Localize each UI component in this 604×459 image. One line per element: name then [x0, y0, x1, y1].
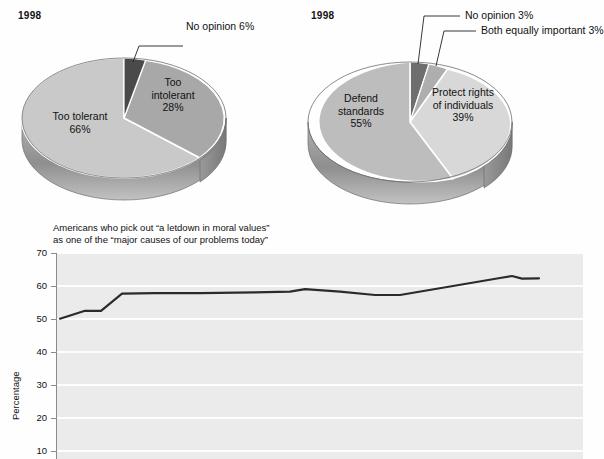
y-tick-label-50: 50: [25, 313, 47, 324]
gridline-40: [57, 351, 583, 353]
gridline-20: [57, 417, 583, 419]
pie2-label-protect-rights-line1: Protect rights: [415, 86, 511, 99]
pie2-label-defend-standards: Defend standards 55%: [316, 92, 406, 130]
plot-area: [57, 253, 583, 459]
pie2-label-defend-standards-line1: Defend: [316, 92, 406, 105]
y-tick-label-20: 20: [25, 412, 47, 423]
gridline-10: [57, 450, 583, 452]
pie2-callout-no-opinion: No opinion 3%: [465, 9, 533, 21]
y-tick-mark-60: [51, 286, 56, 287]
pie2-callout-both-equally-important: Both equally important 3%: [481, 24, 604, 36]
pie2-leader-line-both-equally: [436, 31, 476, 66]
gridline-50: [57, 318, 583, 320]
pie1-label-too-intolerant-value: 28%: [133, 101, 213, 114]
y-tick-mark-50: [51, 319, 56, 320]
y-tick-label-30: 30: [25, 379, 47, 390]
pie2-leader-line-no-opinion: [418, 16, 460, 64]
line-chart-title-line1: Americans who pick out “a letdown in mor…: [53, 222, 269, 234]
pie1-label-too-tolerant-line1: Too tolerant: [25, 110, 135, 123]
y-tick-label-60: 60: [25, 280, 47, 291]
pie2-label-defend-standards-line2: standards: [316, 105, 406, 118]
y-tick-label-70: 70: [25, 247, 47, 258]
gridline-30: [57, 384, 583, 386]
pie1-label-too-intolerant-line2: intolerant: [133, 89, 213, 102]
y-tick-mark-30: [51, 385, 56, 386]
pie2-label-protect-rights-value: 39%: [415, 111, 511, 124]
y-tick-mark-10: [51, 451, 56, 452]
y-axis-line: [56, 253, 57, 459]
pie2-label-protect-rights-line2: of individuals: [415, 99, 511, 112]
pie2-label-defend-standards-value: 55%: [316, 117, 406, 130]
pie2-label-protect-rights: Protect rights of individuals 39%: [415, 86, 511, 124]
pie1-label-too-intolerant: Too intolerant 28%: [133, 76, 213, 114]
gridline-70: [57, 252, 583, 254]
pie1-label-too-tolerant-value: 66%: [25, 123, 135, 136]
pie1-callout-no-opinion: No opinion 6%: [186, 20, 254, 32]
pie1-label-too-intolerant-line1: Too: [133, 76, 213, 89]
line-chart-title-line2: as one of the “major causes of our probl…: [53, 234, 268, 246]
y-axis-label: Percentage: [10, 371, 21, 420]
y-tick-label-10: 10: [25, 445, 47, 456]
y-tick-mark-20: [51, 418, 56, 419]
y-tick-mark-40: [51, 352, 56, 353]
pie1-label-too-tolerant: Too tolerant 66%: [25, 110, 135, 135]
y-tick-mark-70: [51, 253, 56, 254]
y-tick-label-40: 40: [25, 346, 47, 357]
gridline-60: [57, 285, 583, 287]
